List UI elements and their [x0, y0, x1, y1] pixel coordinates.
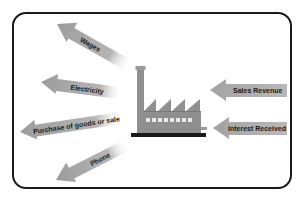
arrow-interest-received: Interest Received [213, 117, 287, 139]
label-sales-revenue: Sales Revenue [233, 87, 283, 94]
label-interest-received: Interest Received [228, 125, 286, 132]
arrow-purchase: Purchase of goods or sale [19, 107, 123, 142]
factory-icon [131, 66, 207, 137]
cash-flow-diagram: Wages Electricity Purchase of goods or s… [0, 0, 300, 199]
arrow-electricity: Electricity [40, 72, 122, 102]
arrow-sales-revenue: Sales Revenue [210, 79, 287, 101]
arrow-phone: Phone [51, 135, 130, 190]
arrow-wages: Wages [52, 14, 134, 73]
